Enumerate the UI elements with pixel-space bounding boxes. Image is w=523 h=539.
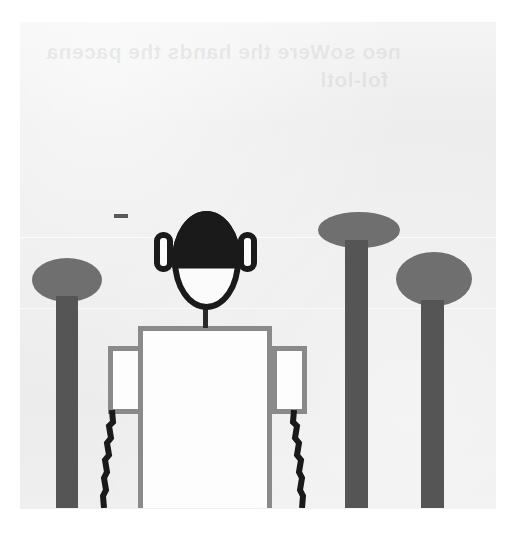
figure-torso	[138, 326, 272, 508]
ghost-text-line-2: fol-lotl	[320, 68, 388, 92]
figure-arm-right	[272, 408, 306, 508]
figure-sleeve-right	[272, 346, 307, 414]
ghost-text-line-1: neo soWere the hands the pacena	[46, 40, 401, 64]
image-canvas: neo soWere the hands the pacena fol-lotl	[0, 0, 523, 539]
scan-seam-upper	[20, 237, 496, 238]
figure-ear-right	[238, 232, 257, 272]
post-middle-right-shaft	[345, 240, 368, 508]
post-right-shaft	[421, 300, 444, 508]
stray-ink-dash	[114, 214, 128, 218]
figure-arm-left	[100, 408, 134, 508]
figure-sleeve-left	[108, 346, 143, 414]
post-left-shaft	[56, 296, 78, 508]
post-right-cap	[396, 252, 472, 306]
figure-ear-left	[154, 232, 173, 272]
